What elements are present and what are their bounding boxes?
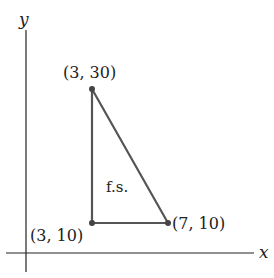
x-axis-label: x — [259, 242, 269, 262]
y-axis-label: y — [18, 9, 29, 29]
point-label-7-10: (7, 10) — [172, 214, 225, 233]
region-label: f.s. — [106, 178, 128, 196]
feasible-triangle — [92, 89, 168, 223]
point-label-3-30: (3, 30) — [63, 63, 116, 82]
diagram: x y (3, 30) (3, 10) (7, 10) f.s. — [0, 0, 274, 278]
vertex-3-30 — [89, 86, 95, 92]
vertex-3-10 — [89, 220, 95, 226]
vertex-7-10 — [165, 220, 171, 226]
point-label-3-10: (3, 10) — [30, 226, 83, 245]
